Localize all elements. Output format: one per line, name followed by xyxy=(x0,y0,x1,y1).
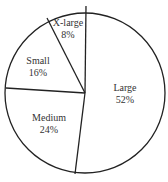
slice-label-small: Small 16% xyxy=(26,55,50,78)
svg-text:Small: Small xyxy=(26,55,50,66)
svg-text:Medium: Medium xyxy=(32,112,66,123)
svg-text:8%: 8% xyxy=(61,29,74,40)
slice-label-large: Large 52% xyxy=(113,82,137,105)
svg-text:Large: Large xyxy=(113,82,137,93)
svg-text:52%: 52% xyxy=(116,94,134,105)
svg-text:X-large: X-large xyxy=(53,17,84,28)
svg-text:24%: 24% xyxy=(40,124,58,135)
pie-chart: Large 52% Medium 24% Small 16% X-large 8… xyxy=(0,0,168,182)
svg-text:16%: 16% xyxy=(29,67,47,78)
